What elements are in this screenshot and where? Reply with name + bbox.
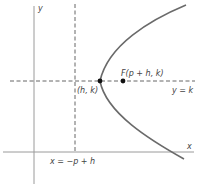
x-axis-label: x bbox=[186, 142, 192, 151]
vertex-label: (h, k) bbox=[77, 86, 98, 95]
focus-point bbox=[121, 79, 126, 84]
y-axis-label: y bbox=[37, 4, 43, 13]
parabola-diagram: y x (h, k) F(p + h, k) y = k x = −p + h bbox=[0, 0, 201, 192]
vertex-point bbox=[98, 79, 103, 84]
focus-label: F(p + h, k) bbox=[121, 69, 164, 78]
directrix-label: x = −p + h bbox=[49, 157, 95, 166]
axis-of-symmetry-label: y = k bbox=[171, 86, 194, 95]
parabola-curve bbox=[100, 5, 186, 159]
